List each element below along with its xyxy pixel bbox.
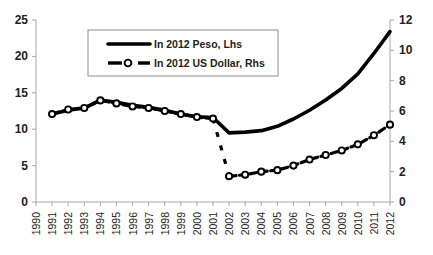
series-marker-dollar	[162, 108, 168, 114]
series-marker-dollar	[210, 115, 216, 121]
series-marker-dollar	[290, 163, 296, 169]
x-tick-label: 2004	[255, 212, 267, 236]
x-tick-label: 1998	[159, 212, 171, 236]
x-tick-label: 2006	[287, 212, 299, 236]
y-tick-label-left: 5	[21, 159, 28, 173]
y-tick-label-left: 0	[21, 195, 28, 209]
series-marker-dollar	[194, 114, 200, 120]
series-marker-dollar	[81, 105, 87, 111]
y-tick-label-left: 25	[15, 13, 29, 27]
x-tick-label: 2000	[191, 212, 203, 236]
series-marker-dollar	[146, 105, 152, 111]
x-tick-label: 2001	[207, 212, 219, 236]
y-tick-label-right: 10	[399, 43, 413, 57]
legend-swatch-dollar-marker	[125, 60, 132, 67]
series-marker-dollar	[323, 152, 329, 158]
series-marker-dollar	[97, 97, 103, 103]
legend-label-peso: In 2012 Peso, Lhs	[154, 38, 242, 50]
x-tick-label: 1994	[94, 212, 106, 236]
x-tick-label: 1995	[110, 212, 122, 236]
x-tick-label: 2002	[223, 212, 235, 236]
y-tick-label-right: 0	[399, 195, 406, 209]
x-tick-label: 1992	[62, 212, 74, 236]
series-marker-dollar	[387, 122, 393, 128]
x-tick-label: 1996	[127, 212, 139, 236]
series-marker-dollar	[178, 111, 184, 117]
series-marker-dollar	[339, 147, 345, 153]
series-marker-dollar	[274, 167, 280, 173]
series-marker-dollar	[306, 156, 312, 162]
x-tick-label: 1997	[143, 212, 155, 236]
y-tick-label-right: 6	[399, 104, 406, 118]
series-marker-dollar	[49, 111, 55, 117]
x-tick-label: 1993	[78, 212, 90, 236]
x-tick-label: 1999	[175, 212, 187, 236]
legend-box	[88, 30, 278, 76]
series-marker-dollar	[65, 106, 71, 112]
y-tick-label-right: 12	[399, 13, 413, 27]
series-marker-dollar	[113, 100, 119, 106]
series-marker-dollar	[355, 141, 361, 147]
legend-label-dollar: In 2012 US Dollar, Rhs	[154, 57, 265, 69]
series-marker-dollar	[242, 172, 248, 178]
y-tick-label-left: 20	[15, 49, 29, 63]
y-tick-label-left: 15	[15, 86, 29, 100]
x-tick-label: 2010	[352, 212, 364, 236]
x-tick-label: 2003	[239, 212, 251, 236]
series-marker-dollar	[258, 169, 264, 175]
series-marker-dollar	[226, 173, 232, 179]
x-tick-label: 2011	[368, 212, 380, 235]
x-tick-label: 1991	[46, 212, 58, 236]
x-tick-label: 2012	[384, 212, 396, 236]
chart-container: 0510152025024681012199019911992199319941…	[0, 0, 433, 255]
x-tick-label: 2005	[271, 212, 283, 236]
x-tick-label: 2007	[304, 212, 316, 236]
y-tick-label-right: 2	[399, 165, 406, 179]
y-tick-label-right: 8	[399, 74, 406, 88]
y-tick-label-right: 4	[399, 134, 406, 148]
x-tick-label: 2009	[336, 212, 348, 236]
series-marker-dollar	[129, 103, 135, 109]
x-tick-label: 2008	[320, 212, 332, 236]
line-chart: 0510152025024681012199019911992199319941…	[0, 0, 433, 255]
y-tick-label-left: 10	[15, 122, 29, 136]
x-tick-label: 1990	[30, 212, 42, 236]
series-marker-dollar	[371, 132, 377, 138]
